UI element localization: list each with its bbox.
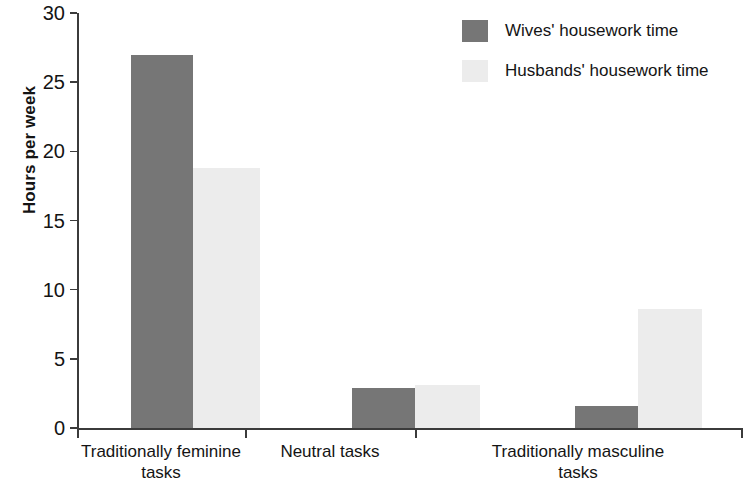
x-category-label-line1: Traditionally feminine [77, 442, 245, 463]
x-category-label: Neutral tasks [245, 442, 415, 463]
legend-swatch-icon-wives [462, 20, 488, 42]
legend-label-husbands: Husbands' housework time [505, 61, 709, 81]
legend-label-wives: Wives' housework time [505, 21, 678, 41]
legend-item-wives: Wives' housework time [462, 16, 709, 46]
legend-item-husbands: Husbands' housework time [462, 56, 709, 86]
bar-wives-1 [131, 55, 193, 429]
bar-husbands-2 [415, 385, 480, 428]
bar-husbands-3 [638, 309, 702, 428]
x-category-label: Traditionally masculinetasks [415, 442, 741, 483]
bar-wives-3 [575, 406, 638, 428]
x-category-label-line2: tasks [77, 463, 245, 484]
x-category-label-line2: tasks [415, 463, 741, 484]
legend-swatch-icon-husbands [462, 60, 488, 82]
x-category-label-line1: Neutral tasks [245, 442, 415, 463]
legend: Wives' housework time Husbands' housewor… [462, 16, 709, 96]
bar-wives-2 [352, 388, 415, 428]
bar-husbands-1 [193, 168, 260, 428]
x-category-label-line1: Traditionally masculine [415, 442, 741, 463]
bar-chart: Hours per week 051015202530 Traditionall… [0, 0, 748, 487]
x-category-label: Traditionally femininetasks [77, 442, 245, 483]
